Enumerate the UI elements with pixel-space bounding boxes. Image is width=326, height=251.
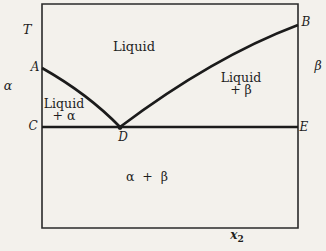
region-label-liquid: Liquid — [113, 40, 155, 53]
point-label-a: A — [31, 61, 40, 73]
point-label-c: C — [28, 120, 37, 132]
point-label-e: E — [300, 121, 309, 133]
point-label-d: D — [118, 131, 128, 143]
region-label-liquid-alpha: Liquid+ α — [44, 98, 84, 122]
left-phase-label-alpha: α — [4, 80, 12, 93]
phase-diagram-canvas — [0, 0, 326, 251]
x-axis-label-subscript: 2 — [237, 234, 243, 244]
region-label-liquid-beta-line2: + β — [230, 82, 252, 97]
point-label-b: B — [302, 16, 311, 28]
region-label-liquid-alpha-line2: + α — [53, 108, 76, 123]
x-axis-label-composition: x2 — [230, 229, 243, 244]
region-label-liquid-beta: Liquid+ β — [221, 72, 261, 96]
y-axis-label-temperature: T — [23, 23, 32, 36]
right-phase-label-beta: β — [314, 60, 321, 73]
phase-diagram-figure: T α β x2 A B C D E Liquid Liquid+ α Liqu… — [0, 0, 326, 251]
region-label-alpha-beta: α + β — [126, 171, 170, 184]
